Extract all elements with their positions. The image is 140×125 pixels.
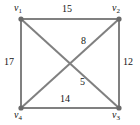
edge-weight-v1-v2: 15 — [62, 4, 72, 14]
weighted-graph-figure: v1 v2 v3 v4 15 17 12 14 8 5 — [0, 0, 140, 125]
vertex-label-v1: v1 — [14, 3, 22, 15]
edge-weight-v2-v4: 8 — [81, 36, 86, 46]
edge-weight-v1-v3: 5 — [80, 77, 85, 87]
vertex-subscript-v3: 3 — [116, 114, 120, 122]
vertex-subscript-v2: 2 — [116, 7, 120, 15]
edge-weight-v1-v4: 17 — [4, 57, 14, 67]
edge-weight-v4-v3: 14 — [60, 94, 70, 104]
vertex-subscript-v1: 1 — [18, 7, 22, 15]
vertex-subscript-v4: 4 — [18, 114, 22, 122]
vertex-v2 — [116, 16, 121, 21]
vertex-label-v4: v4 — [14, 110, 22, 122]
vertex-label-v3: v3 — [112, 110, 120, 122]
graph-canvas — [0, 0, 140, 125]
edge-weight-v2-v3: 12 — [123, 57, 133, 67]
vertex-v1 — [18, 16, 23, 21]
vertex-label-v2: v2 — [112, 3, 120, 15]
